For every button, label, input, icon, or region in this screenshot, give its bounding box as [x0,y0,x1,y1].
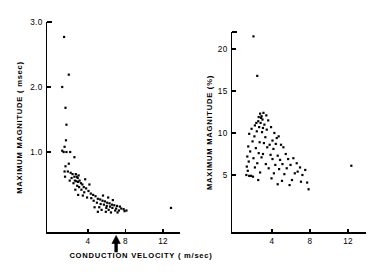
data-point [292,157,294,159]
data-point [74,189,76,191]
data-point [116,211,118,213]
data-point [82,194,84,196]
data-point [71,173,73,175]
data-point [282,146,284,148]
data-point [264,136,266,138]
data-point [119,206,121,208]
data-point [260,156,262,158]
data-point [283,173,285,175]
data-point [273,172,275,174]
data-point [67,170,69,172]
x-ticklabel-left-4: 4 [86,237,91,246]
data-point [123,210,125,212]
data-point [269,154,271,156]
data-point [75,173,77,175]
data-point [247,170,249,172]
data-point [271,158,273,160]
data-point [113,204,115,206]
data-point [248,160,250,162]
data-point [279,159,281,161]
data-point [265,163,267,165]
y-ticklabel-left-3: 3.0 [30,18,42,27]
data-point [294,172,296,174]
data-point [259,171,261,173]
data-point [258,126,260,128]
data-point [70,177,72,179]
data-point [103,204,105,206]
x-ticklabel-left-12: 12 [158,237,168,246]
data-point [105,207,107,209]
data-point [267,119,269,121]
data-point [92,194,94,196]
data-point [78,174,80,176]
data-point [106,202,108,204]
data-point [63,151,65,153]
data-point [105,211,107,213]
data-point [78,180,80,182]
data-point [254,166,256,168]
data-point [350,165,352,167]
data-point [68,163,70,165]
data-point [250,128,252,130]
arrow-marker [112,236,120,253]
data-point [65,151,67,153]
data-point [262,127,264,129]
data-point [277,183,279,185]
data-point [81,183,83,185]
y-ticklabel-right-20: 20 [218,45,228,54]
data-point [297,171,299,173]
data-point [263,124,265,126]
data-point [276,137,278,139]
data-point [125,209,127,211]
data-point [108,209,110,211]
data-point [268,167,270,169]
data-point [93,200,95,202]
data-point [277,155,279,157]
data-point [64,165,66,167]
data-point [259,113,261,115]
data-point [87,190,89,192]
data-point [262,112,264,114]
y-axis-title-right: MAXIMUM MAGNITUDE (%) [205,75,214,190]
data-point [111,207,113,209]
data-point [78,186,80,188]
data-point [263,142,265,144]
data-point [281,180,283,182]
data-point [115,207,117,209]
panel-left: 48121.02.03.0MAXIMUM MAGNITUDE ( msec) [15,18,180,252]
data-point [252,176,254,178]
data-point [278,168,280,170]
data-point [114,209,116,211]
y-ticklabel-left-1: 1.0 [30,148,42,157]
data-point [307,188,309,190]
data-point [246,155,248,157]
data-point [247,145,249,147]
data-point [75,180,77,182]
data-point [61,86,63,88]
data-point [257,179,259,181]
data-point [301,174,303,176]
data-point [97,198,99,200]
data-point [252,35,254,37]
data-point [289,164,291,166]
data-point [77,194,79,196]
data-point [70,172,72,174]
x-ticklabel-right-12: 12 [343,237,353,246]
x-ticklabel-right-4: 4 [270,237,275,246]
data-point [255,122,257,124]
data-point [73,176,75,178]
data-point [104,200,106,202]
data-point [80,189,82,191]
data-point [256,130,258,132]
data-point [272,148,274,150]
data-point [266,146,268,148]
data-point [274,164,276,166]
data-point [245,174,247,176]
data-point [246,166,248,168]
data-point [273,132,275,134]
data-point [69,180,71,182]
data-point [252,157,254,159]
data-point [100,209,102,211]
data-point [266,129,268,131]
data-point [306,181,308,183]
